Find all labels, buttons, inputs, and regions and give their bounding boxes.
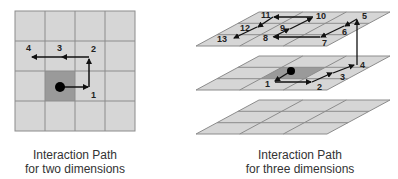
caption-2d: Interaction Path for two dimensions — [0, 148, 150, 176]
caption-3d-line1: Interaction Path — [205, 148, 395, 162]
label-2d-4: 4 — [26, 43, 31, 53]
caption-3d-line2: for three dimensions — [205, 162, 395, 176]
label-2d-3: 3 — [57, 43, 62, 53]
grid-2d: 1 2 3 4 — [15, 11, 135, 131]
start-point-2d — [55, 82, 65, 92]
label-3d-1: 1 — [265, 79, 270, 89]
label-2d-1: 1 — [91, 90, 96, 100]
label-2d-2: 2 — [91, 44, 96, 54]
caption-3d: Interaction Path for three dimensions — [205, 148, 395, 176]
label-3d-4: 4 — [360, 60, 365, 70]
label-3d-5: 5 — [362, 11, 367, 21]
label-3d-6: 6 — [342, 27, 347, 37]
label-3d-10: 10 — [316, 11, 326, 21]
label-3d-13: 13 — [217, 34, 227, 44]
label-3d-3: 3 — [340, 72, 345, 82]
label-3d-11: 11 — [261, 10, 271, 20]
label-3d-2: 2 — [317, 82, 322, 92]
plane-bottom — [196, 100, 390, 134]
label-3d-8: 8 — [263, 33, 268, 43]
caption-2d-line1: Interaction Path — [0, 148, 150, 162]
label-3d-12: 12 — [240, 23, 250, 33]
label-3d-9: 9 — [280, 23, 285, 33]
caption-2d-line2: for two dimensions — [0, 162, 150, 176]
label-3d-7: 7 — [322, 38, 327, 48]
start-point-3d — [287, 67, 295, 75]
